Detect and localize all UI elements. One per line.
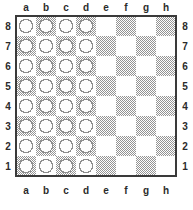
piece-a7[interactable]: [19, 39, 32, 52]
board-square-g4[interactable]: [136, 96, 156, 116]
board-square-f7[interactable]: [116, 36, 136, 56]
board-square-e4[interactable]: [96, 96, 116, 116]
board-square-f8[interactable]: [116, 16, 136, 36]
piece-d8[interactable]: [79, 19, 92, 32]
board-square-g5[interactable]: [136, 76, 156, 96]
rank-label-left-8: 8: [5, 21, 11, 32]
piece-b4[interactable]: [39, 99, 52, 112]
piece-b8[interactable]: [39, 19, 52, 32]
board-square-e7[interactable]: [96, 36, 116, 56]
piece-d4[interactable]: [79, 99, 92, 112]
rank-label-left-1: 1: [5, 161, 11, 172]
board-square-h3[interactable]: [156, 116, 176, 136]
piece-a2[interactable]: [19, 139, 32, 152]
file-label-top-e: e: [103, 2, 109, 13]
file-label-top-b: b: [43, 2, 49, 13]
piece-a1[interactable]: [19, 159, 32, 172]
board-square-h6[interactable]: [156, 56, 176, 76]
file-label-bottom-c: c: [63, 185, 69, 196]
piece-c6[interactable]: [59, 59, 72, 72]
board-square-g8[interactable]: [136, 16, 156, 36]
board-square-g1[interactable]: [136, 156, 156, 176]
file-label-bottom-d: d: [83, 185, 89, 196]
piece-a3[interactable]: [19, 119, 32, 132]
board-canvas: aabbccddeeffgghh8877665544332211: [0, 0, 193, 210]
board-square-e3[interactable]: [96, 116, 116, 136]
piece-b1[interactable]: [39, 159, 52, 172]
piece-c5[interactable]: [59, 79, 72, 92]
board-square-g3[interactable]: [136, 116, 156, 136]
board-square-g7[interactable]: [136, 36, 156, 56]
file-label-top-a: a: [23, 2, 29, 13]
board-square-g2[interactable]: [136, 136, 156, 156]
board-square-f5[interactable]: [116, 76, 136, 96]
piece-a4[interactable]: [19, 99, 32, 112]
board-square-h5[interactable]: [156, 76, 176, 96]
file-label-top-d: d: [83, 2, 89, 13]
piece-d3[interactable]: [79, 119, 92, 132]
rank-label-left-5: 5: [5, 81, 11, 92]
file-label-top-h: h: [163, 2, 169, 13]
piece-d7[interactable]: [79, 39, 92, 52]
file-label-top-c: c: [63, 2, 69, 13]
piece-d1[interactable]: [79, 159, 92, 172]
board-square-f1[interactable]: [116, 156, 136, 176]
rank-label-left-3: 3: [5, 121, 11, 132]
piece-c4[interactable]: [59, 99, 72, 112]
piece-d2[interactable]: [79, 139, 92, 152]
rank-label-right-7: 7: [182, 41, 188, 52]
board-square-e6[interactable]: [96, 56, 116, 76]
rank-label-right-3: 3: [182, 121, 188, 132]
piece-c1[interactable]: [59, 159, 72, 172]
rank-label-left-4: 4: [5, 101, 11, 112]
file-label-bottom-b: b: [43, 185, 49, 196]
piece-b6[interactable]: [39, 59, 52, 72]
board-square-f6[interactable]: [116, 56, 136, 76]
board-square-f4[interactable]: [116, 96, 136, 116]
board-square-e5[interactable]: [96, 76, 116, 96]
board-square-h8[interactable]: [156, 16, 176, 36]
rank-label-left-2: 2: [5, 141, 11, 152]
piece-a6[interactable]: [19, 59, 32, 72]
file-label-top-f: f: [124, 2, 128, 13]
piece-b3[interactable]: [39, 119, 52, 132]
board-square-f3[interactable]: [116, 116, 136, 136]
rank-label-right-2: 2: [182, 141, 188, 152]
piece-b5[interactable]: [39, 79, 52, 92]
board-square-e1[interactable]: [96, 156, 116, 176]
board-square-g6[interactable]: [136, 56, 156, 76]
board-square-f2[interactable]: [116, 136, 136, 156]
rank-label-right-6: 6: [182, 61, 188, 72]
file-label-top-g: g: [143, 2, 149, 13]
board-square-h7[interactable]: [156, 36, 176, 56]
board-square-e2[interactable]: [96, 136, 116, 156]
board-square-h2[interactable]: [156, 136, 176, 156]
board-square-h4[interactable]: [156, 96, 176, 116]
board-square-e8[interactable]: [96, 16, 116, 36]
piece-a8[interactable]: [19, 19, 32, 32]
rank-label-right-1: 1: [182, 161, 188, 172]
piece-c3[interactable]: [59, 119, 72, 132]
rank-label-left-6: 6: [5, 61, 11, 72]
file-label-bottom-f: f: [124, 185, 128, 196]
file-label-bottom-h: h: [163, 185, 169, 196]
rank-label-right-4: 4: [182, 101, 188, 112]
piece-d5[interactable]: [79, 79, 92, 92]
piece-c7[interactable]: [59, 39, 72, 52]
piece-b2[interactable]: [39, 139, 52, 152]
file-label-bottom-e: e: [103, 185, 109, 196]
piece-c8[interactable]: [59, 19, 72, 32]
piece-c2[interactable]: [59, 139, 72, 152]
rank-label-right-5: 5: [182, 81, 188, 92]
file-label-bottom-a: a: [23, 185, 29, 196]
board-square-h1[interactable]: [156, 156, 176, 176]
piece-d6[interactable]: [79, 59, 92, 72]
chessboard-diagram: aabbccddeeffgghh8877665544332211: [0, 0, 193, 210]
file-label-bottom-g: g: [143, 185, 149, 196]
rank-label-left-7: 7: [5, 41, 11, 52]
rank-label-right-8: 8: [182, 21, 188, 32]
squares-layer: [16, 16, 176, 176]
piece-a5[interactable]: [19, 79, 32, 92]
piece-b7[interactable]: [39, 39, 52, 52]
